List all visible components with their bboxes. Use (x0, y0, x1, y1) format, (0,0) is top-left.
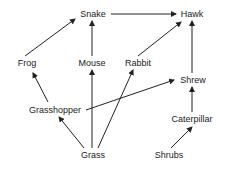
node-frog: Frog (18, 59, 37, 68)
node-shrubs: Shrubs (155, 151, 184, 160)
arrow-frog-to-snake (25, 19, 75, 56)
arrow-rabbit-to-hawk (138, 22, 181, 56)
arrow-grasshopper-to-shrew (86, 80, 174, 110)
node-mouse: Mouse (78, 59, 105, 68)
node-grass: Grass (81, 151, 105, 160)
node-grasshopper: Grasshopper (29, 106, 81, 115)
arrow-grass-to-rabbit (98, 70, 133, 148)
node-snake: Snake (80, 10, 106, 19)
edges-layer (0, 0, 225, 172)
node-hawk: Hawk (181, 10, 204, 19)
arrow-grasshopper-to-frog (33, 73, 48, 102)
food-web-diagram: SnakeHawkFrogMouseRabbitShrewGrasshopper… (0, 0, 225, 172)
node-shrew: Shrew (180, 76, 206, 85)
arrow-grass-to-grasshopper (59, 117, 84, 148)
arrow-shrubs-to-caterpillar (171, 127, 192, 148)
node-rabbit: Rabbit (125, 59, 151, 68)
node-caterpillar: Caterpillar (171, 115, 212, 124)
